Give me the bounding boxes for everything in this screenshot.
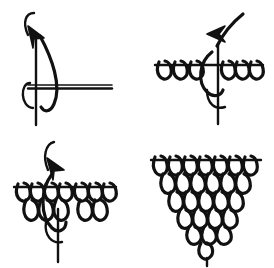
panel-step-1 — [0, 0, 137, 134]
base-loop — [23, 83, 33, 108]
panel-4-artwork — [137, 134, 274, 268]
loop-row-1-left — [157, 61, 203, 79]
loop-row-1 — [16, 183, 116, 201]
loop-row-4 — [178, 210, 237, 228]
loop-row-2 — [24, 200, 107, 220]
panel-step-4 — [137, 134, 274, 268]
panel-3-artwork — [0, 134, 137, 268]
crochet-step-diagram — [0, 0, 274, 268]
loop-row-1-right — [221, 61, 263, 79]
panel-step-2 — [137, 0, 274, 134]
panel-2-artwork — [137, 0, 274, 134]
loop-row-6 — [199, 243, 213, 259]
panel-1-artwork — [0, 0, 137, 134]
loop-row-5 — [187, 227, 231, 244]
crochet-hook-curve — [40, 36, 57, 111]
panel-step-3 — [0, 134, 137, 268]
